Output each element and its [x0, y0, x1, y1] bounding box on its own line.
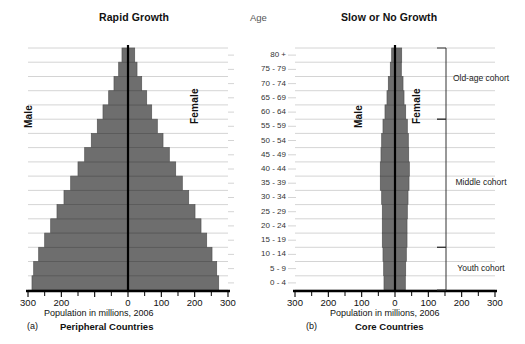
- bar-female: [128, 247, 212, 261]
- age-label: 40 - 44: [236, 164, 286, 173]
- bar-male: [387, 91, 395, 105]
- bar-male: [380, 162, 395, 176]
- bar-female: [395, 205, 407, 219]
- cohort-label: Middle cohort: [450, 177, 512, 187]
- age-label: 35 - 39: [236, 178, 286, 187]
- bar-female: [395, 105, 406, 119]
- age-label: 55 - 59: [236, 121, 286, 130]
- bar-male: [382, 219, 395, 233]
- axis-tick-label: 0: [384, 297, 406, 308]
- bar-male: [382, 205, 395, 219]
- bar-male: [384, 262, 395, 276]
- bar-female: [128, 105, 152, 119]
- cohort-bracket: [437, 247, 446, 290]
- bar-female: [128, 233, 207, 247]
- cohort-label: Youth cohort: [450, 263, 512, 273]
- bar-male: [381, 148, 395, 162]
- bar-male: [78, 162, 128, 176]
- axis-tick-label: 200: [451, 297, 473, 308]
- bar-female: [128, 77, 142, 91]
- right-male-label: Male: [353, 105, 364, 128]
- age-label: 65 - 69: [236, 93, 286, 102]
- bar-female: [395, 190, 408, 204]
- bar-male: [385, 105, 395, 119]
- right-female-label: Female: [411, 88, 422, 124]
- bar-female: [128, 148, 169, 162]
- axis-tick-label: 100: [150, 297, 172, 308]
- age-label: 30 - 34: [236, 192, 286, 201]
- axis-tick-label: 300: [484, 297, 506, 308]
- bar-male: [383, 247, 395, 261]
- bar-male: [383, 119, 395, 133]
- axis-tick-label: 200: [317, 297, 339, 308]
- age-label: 70 - 74: [236, 79, 286, 88]
- bar-male: [57, 205, 128, 219]
- axis-tick-label: 200: [50, 297, 72, 308]
- bar-male: [45, 233, 128, 247]
- bar-male: [114, 77, 128, 91]
- age-label: 15 - 19: [236, 235, 286, 244]
- left-panel-letter: (a): [27, 321, 38, 331]
- population-pyramid-figure: Rapid Growth Age Slow or No Growth 0 - 4…: [0, 0, 525, 344]
- axis-tick-label: 100: [417, 297, 439, 308]
- right-plot-area: [293, 45, 497, 297]
- bar-female: [395, 77, 403, 91]
- bar-female: [395, 119, 407, 133]
- bar-female: [128, 205, 195, 219]
- right-panel-letter: (b): [306, 321, 317, 331]
- left-panel-name: Peripheral Countries: [60, 321, 153, 332]
- bar-male: [91, 133, 128, 147]
- bar-male: [34, 262, 128, 276]
- bar-male: [382, 233, 395, 247]
- bar-female: [395, 276, 405, 290]
- bar-female: [395, 262, 406, 276]
- bar-male: [32, 276, 128, 290]
- bar-male: [51, 219, 128, 233]
- axis-tick-label: 300: [217, 297, 239, 308]
- age-label: 75 - 79: [236, 64, 286, 73]
- cohort-bracket: [437, 119, 446, 247]
- age-label: 20 - 24: [236, 221, 286, 230]
- bar-male: [119, 62, 128, 76]
- bar-female: [395, 233, 407, 247]
- bar-male: [71, 176, 128, 190]
- axis-tick-label: 300: [284, 297, 306, 308]
- cohort-bracket: [437, 48, 446, 119]
- bar-female: [128, 262, 217, 276]
- bar-female: [395, 148, 409, 162]
- left-female-label: Female: [189, 88, 200, 124]
- bar-male: [97, 119, 128, 133]
- axis-tick-label: 300: [17, 297, 39, 308]
- bar-male: [109, 91, 128, 105]
- axis-tick-label: 200: [184, 297, 206, 308]
- age-label: 60 - 64: [236, 107, 286, 116]
- right-panel-name: Core Countries: [355, 321, 424, 332]
- age-label: 0 - 4: [236, 278, 286, 287]
- bar-female: [128, 190, 189, 204]
- right-axis-label: Population in millions, 2006: [330, 308, 440, 318]
- bar-female: [128, 119, 157, 133]
- left-plot-area: [26, 45, 230, 297]
- age-label: 45 - 49: [236, 150, 286, 159]
- bar-female: [395, 176, 409, 190]
- bar-male: [39, 247, 128, 261]
- bar-male: [382, 190, 395, 204]
- bar-female: [128, 219, 201, 233]
- bar-male: [380, 176, 395, 190]
- age-label: 80 +: [236, 50, 286, 59]
- age-label: 10 - 14: [236, 249, 286, 258]
- axis-tick-label: 0: [117, 297, 139, 308]
- bar-female: [128, 62, 137, 76]
- bar-female: [395, 162, 409, 176]
- bar-female: [395, 133, 408, 147]
- age-label: 50 - 54: [236, 136, 286, 145]
- left-axis-label: Population in millions, 2006: [44, 308, 154, 318]
- bar-female: [128, 276, 219, 290]
- bar-male: [103, 105, 128, 119]
- left-male-label: Male: [23, 105, 34, 128]
- age-label: 5 - 9: [236, 264, 286, 273]
- bar-female: [128, 133, 163, 147]
- bar-female: [395, 91, 404, 105]
- bar-male: [384, 276, 395, 290]
- bar-female: [128, 91, 147, 105]
